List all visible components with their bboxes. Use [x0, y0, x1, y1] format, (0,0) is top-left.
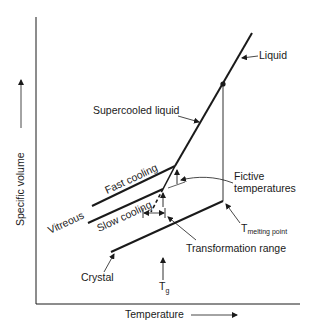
x-axis-label: Temperature [125, 308, 184, 320]
tg-subscript: g [165, 287, 169, 295]
tg-label: Tg [159, 280, 169, 295]
fictive-label-line1: Fictive [234, 170, 264, 182]
crystal-pointer [104, 254, 114, 272]
melting-point-subscript: melting point [247, 228, 287, 236]
glass-transition-diagram: Specific volume Temperature Fictive temp… [0, 0, 317, 332]
liquid-line [175, 33, 252, 166]
fictive-label-line2: temperatures [234, 182, 296, 194]
fictive-tick-fast [168, 182, 185, 188]
melting-point-label: Tmelting point [241, 222, 287, 236]
supercooled-liquid-pointer [178, 116, 199, 122]
transformation-range-label: Transformation range [186, 242, 286, 254]
supercooled-liquid-label: Supercooled liquid [93, 104, 180, 116]
melting-point-pointer [226, 204, 240, 223]
vitreous-label: Vitreous [46, 209, 86, 236]
fictive-pointer [181, 177, 233, 183]
liquid-label: Liquid [259, 49, 287, 61]
y-axis-label: Specific volume [14, 152, 26, 226]
crystal-label: Crystal [81, 271, 114, 283]
liquid-pointer [242, 56, 258, 58]
